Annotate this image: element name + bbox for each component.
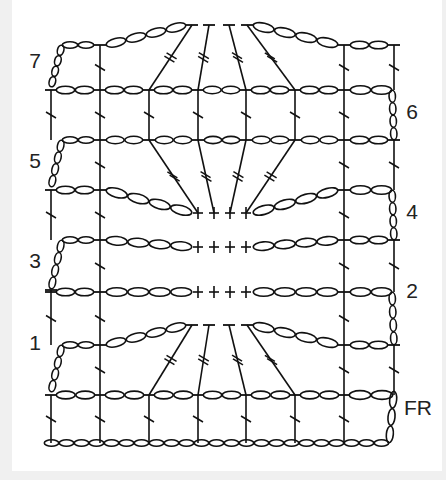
chain-stitch-icon <box>251 86 269 94</box>
chain-stitch-icon <box>62 137 77 143</box>
chain-stitch-icon <box>148 197 171 211</box>
chain-stitch-icon <box>314 440 328 446</box>
chain-stitch-icon <box>48 175 57 188</box>
chain-stitch-icon <box>371 186 391 194</box>
chain-stitch-icon <box>194 440 208 446</box>
chain-stitch-icon <box>62 342 77 348</box>
chain-stitch-icon <box>319 86 337 94</box>
chain-stitch-icon <box>350 41 368 49</box>
chain-stitch-icon <box>320 136 338 143</box>
chain-stitch-icon <box>301 136 319 143</box>
chain-stitch-icon <box>59 440 73 446</box>
chain-stitch-icon <box>165 21 186 34</box>
chain-stitch-icon <box>300 86 318 94</box>
chain-stitch-icon <box>274 239 295 249</box>
chain-stitch-icon <box>149 288 170 297</box>
chain-stitch-icon <box>125 331 146 344</box>
chain-stitch-icon <box>390 115 397 127</box>
chain-stitch-icon <box>165 321 186 334</box>
chain-stitch-icon <box>390 228 397 240</box>
chain-stitch-icon <box>350 136 368 144</box>
chain-stitch-icon <box>320 391 339 399</box>
chain-stitch-icon <box>222 136 239 143</box>
chain-stitch-icon <box>203 391 221 399</box>
chain-stitch-icon <box>203 86 221 93</box>
chain-stitch-icon <box>124 86 142 94</box>
chain-stitch-icon <box>145 326 166 339</box>
chain-stitch-icon <box>296 288 317 297</box>
chain-stitch-icon <box>173 86 191 94</box>
chain-stitch-icon <box>386 426 395 443</box>
chain-stitch-icon <box>251 391 270 399</box>
chain-stitch-icon <box>254 440 268 446</box>
chain-stitch-icon <box>389 190 396 202</box>
chain-stitch-icon <box>53 252 62 265</box>
chain-stitch-icon <box>329 440 343 446</box>
chain-stitch-icon <box>164 440 178 446</box>
chain-stitch-icon <box>295 192 318 206</box>
chain-stitch-icon <box>78 137 93 143</box>
chain-stitch-icon <box>349 391 370 400</box>
chain-stitch-icon <box>295 31 318 44</box>
chain-stitch-icon <box>125 391 144 399</box>
chain-stitch-icon <box>350 288 370 296</box>
chain-stitch-icon <box>174 136 192 143</box>
chain-stitch-icon <box>75 86 93 94</box>
chain-stitch-icon <box>390 319 397 332</box>
chain-stitch-icon <box>252 203 275 217</box>
chain-stitch-icon <box>78 342 93 348</box>
chain-stitch-icon <box>389 292 396 305</box>
chain-stitch-icon <box>369 236 387 244</box>
row-label-2: 2 <box>406 279 418 302</box>
chain-stitch-icon <box>127 237 149 247</box>
chain-stitch-icon <box>106 288 127 297</box>
chain-stitch-icon <box>48 276 57 289</box>
chain-stitch-icon <box>269 440 283 446</box>
chain-stitch-icon <box>127 192 150 206</box>
chain-stitch-icon <box>252 136 270 143</box>
chain-stitch-icon <box>209 440 223 446</box>
chain-stitch-icon <box>155 136 173 143</box>
chain-stitch-icon <box>105 336 126 349</box>
chain-stitch-icon <box>51 264 60 277</box>
chain-stitch-icon <box>128 288 149 297</box>
chain-stitch-icon <box>359 440 373 446</box>
chain-stitch-icon <box>106 136 124 143</box>
chain-stitch-icon <box>253 288 274 297</box>
chain-stitch-icon <box>274 326 297 339</box>
chain-stitch-icon <box>274 26 297 39</box>
chain-stitch-icon <box>51 65 60 77</box>
chain-stitch-icon <box>78 237 93 243</box>
chain-stitch-icon <box>62 42 77 48</box>
chain-stitch-icon <box>170 203 193 217</box>
chain-stitch-icon <box>56 86 74 94</box>
chain-stitch-icon <box>316 336 339 349</box>
chain-stitch-icon <box>125 136 143 143</box>
chain-stitch-icon <box>389 203 396 215</box>
chain-stitch-icon <box>273 197 296 211</box>
chain-stitch-icon <box>316 186 339 200</box>
chain-stitch-icon <box>53 151 62 164</box>
chain-stitch-icon <box>344 440 358 446</box>
chain-stitch-icon <box>154 391 173 399</box>
chain-stitch-icon <box>369 341 387 349</box>
chain-stitch-icon <box>204 136 221 143</box>
chain-stitch-icon <box>390 215 397 227</box>
row-label-3: 3 <box>29 249 41 272</box>
chain-stitch-icon <box>62 237 77 243</box>
chain-stitch-icon <box>106 236 128 246</box>
chain-stitch-icon <box>271 136 289 143</box>
chain-stitch-icon <box>390 128 397 140</box>
chain-stitch-icon <box>389 103 396 115</box>
chain-stitch-icon <box>252 21 275 34</box>
chain-stitch-icon <box>389 391 398 408</box>
chain-stitch-icon <box>75 186 93 194</box>
chain-stitch-icon <box>275 288 296 297</box>
chain-stitch-icon <box>299 440 313 446</box>
chain-stitch-icon <box>390 332 397 345</box>
row-label-1: 1 <box>29 331 41 354</box>
chain-stitch-icon <box>76 391 95 399</box>
chain-stitch-icon <box>300 391 319 399</box>
chain-stitch-icon <box>48 380 57 393</box>
chain-stitch-icon <box>174 391 193 399</box>
